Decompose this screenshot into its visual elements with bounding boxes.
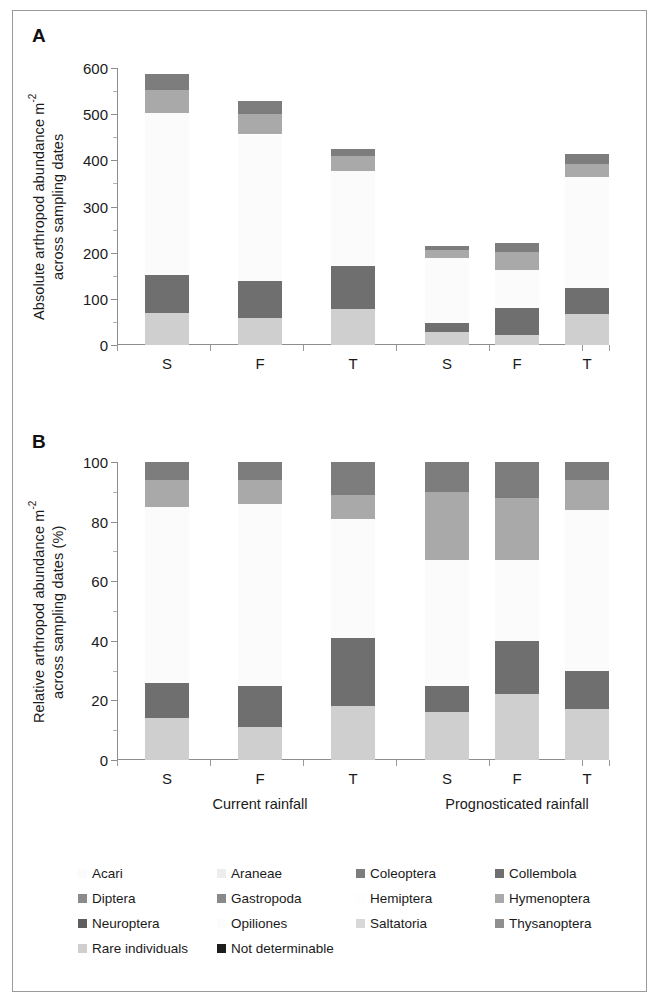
- legend-item-rare-individuals[interactable]: Rare individuals: [78, 941, 217, 956]
- legend-swatch-icon: [217, 869, 226, 878]
- bar-segment-hymenoptera: [495, 498, 539, 561]
- bar-segment-hymenoptera: [238, 480, 282, 504]
- bar-segment-rare-individuals: [495, 694, 539, 760]
- y-axis-line-a: [117, 68, 118, 345]
- legend-label: Gastropoda: [231, 891, 302, 906]
- x-tick-a-5: [582, 345, 583, 351]
- bar-segment-collembola: [145, 275, 189, 313]
- x-category-label-a-2: F: [230, 355, 290, 372]
- legend-item-neuroptera[interactable]: Neuroptera: [78, 916, 217, 931]
- y-tick-a-400: [111, 160, 117, 161]
- panel-label-b: B: [32, 431, 46, 453]
- legend-item-acari[interactable]: Acari: [78, 866, 217, 881]
- x-tick-a-6: [609, 345, 610, 351]
- bar-segment-acari: [425, 258, 469, 323]
- bar-segment-rare-individuals: [331, 309, 375, 345]
- bar-segment-acari: [238, 135, 282, 281]
- y-minor-tick-a: [113, 137, 117, 138]
- bar-segment-hymenoptera: [238, 114, 282, 135]
- legend-label: Acari: [92, 866, 123, 881]
- bar-segment-hymenoptera: [145, 90, 189, 113]
- bar-segment-coleoptera: [331, 462, 375, 495]
- x-category-label-b-2: F: [230, 770, 290, 787]
- legend-item-collembola[interactable]: Collembola: [495, 866, 634, 881]
- legend-label: Hymenoptera: [509, 891, 590, 906]
- bar-segment-coleoptera: [425, 462, 469, 492]
- bar-segment-rare-individuals: [565, 314, 609, 345]
- y-axis-label-a-text: Absolute arthropod abundance m: [31, 103, 47, 320]
- legend-item-thysanoptera[interactable]: Thysanoptera: [495, 916, 634, 931]
- legend-item-gastropoda[interactable]: Gastropoda: [217, 891, 356, 906]
- legend-item-hemiptera[interactable]: Hemiptera: [356, 891, 495, 906]
- plot-area-panel-b: 020406080100: [117, 462, 609, 760]
- group-label-prognosticated-rainfall: Prognosticated rainfall: [397, 796, 637, 812]
- bar-segment-collembola: [565, 671, 609, 710]
- x-tick-b-6: [609, 760, 610, 766]
- bar-segment-rare-individuals: [425, 332, 469, 345]
- y-tick-b-100: [111, 462, 117, 463]
- y-minor-tick-b: [113, 671, 117, 672]
- bar-segment-acari: [425, 560, 469, 685]
- x-category-label-b-4: S: [417, 770, 477, 787]
- y-tick-label-b-0: 0: [100, 752, 108, 769]
- bar-segment-coleoptera: [565, 462, 609, 480]
- y-tick-label-a-300: 300: [83, 198, 108, 215]
- bar-segment-coleoptera: [495, 462, 539, 498]
- legend-label: Opiliones: [231, 916, 287, 931]
- bar-segment-collembola: [495, 641, 539, 695]
- y-axis-label-b-superscript: -2: [27, 501, 38, 510]
- y-tick-label-b-40: 40: [91, 632, 108, 649]
- bar-b-5-F: [495, 462, 539, 760]
- x-tick-a-0: [117, 345, 118, 351]
- x-tick-b-0: [117, 760, 118, 766]
- legend-swatch-icon: [217, 919, 226, 928]
- bar-segment-rare-individuals: [145, 313, 189, 345]
- bar-segment-coleoptera: [145, 462, 189, 480]
- y-tick-a-500: [111, 114, 117, 115]
- x-category-label-a-5: F: [487, 355, 547, 372]
- bar-segment-acari: [331, 519, 375, 638]
- y-tick-a-100: [111, 299, 117, 300]
- legend-label: Not determinable: [231, 941, 334, 956]
- bar-segment-acari: [145, 507, 189, 683]
- legend-item-araneae[interactable]: Araneae: [217, 866, 356, 881]
- bar-segment-rare-individuals: [425, 712, 469, 760]
- bar-segment-hymenoptera: [565, 164, 609, 178]
- y-minor-tick-a: [113, 91, 117, 92]
- legend-label: Rare individuals: [92, 941, 188, 956]
- bar-segment-coleoptera: [425, 246, 469, 250]
- bar-segment-acari: [565, 177, 609, 288]
- y-tick-label-a-200: 200: [83, 244, 108, 261]
- plot-area-panel-a: 0100200300400500600: [117, 68, 609, 345]
- y-axis-label-panel-a: Absolute arthropod abundance m-2 across …: [26, 62, 66, 352]
- bar-segment-collembola: [331, 266, 375, 309]
- bar-segment-hymenoptera: [565, 480, 609, 510]
- y-axis-label-panel-b: Relative arthropod abundance m-2 across …: [26, 452, 66, 772]
- bar-segment-collembola: [425, 686, 469, 713]
- y-tick-b-40: [111, 641, 117, 642]
- bar-segment-collembola: [238, 686, 282, 728]
- legend-label: Thysanoptera: [509, 916, 592, 931]
- y-tick-label-b-60: 60: [91, 573, 108, 590]
- legend-item-opiliones[interactable]: Opiliones: [217, 916, 356, 931]
- legend-swatch-icon: [78, 869, 87, 878]
- x-tick-b-1: [210, 760, 211, 766]
- legend-swatch-icon: [356, 869, 365, 878]
- legend-item-coleoptera[interactable]: Coleoptera: [356, 866, 495, 881]
- legend-item-saltatoria[interactable]: Saltatoria: [356, 916, 495, 931]
- x-category-label-a-1: S: [137, 355, 197, 372]
- y-tick-label-b-20: 20: [91, 692, 108, 709]
- y-axis-label-a-superscript: -2: [27, 94, 38, 103]
- y-minor-tick-b: [113, 551, 117, 552]
- y-tick-a-300: [111, 207, 117, 208]
- y-tick-label-a-0: 0: [100, 337, 108, 354]
- y-minor-tick-a: [113, 322, 117, 323]
- bar-segment-collembola: [238, 281, 282, 318]
- bar-segment-coleoptera: [145, 74, 189, 90]
- legend-item-hymenoptera[interactable]: Hymenoptera: [495, 891, 634, 906]
- legend-item-diptera[interactable]: Diptera: [78, 891, 217, 906]
- bar-segment-acari: [238, 504, 282, 686]
- x-tick-a-1: [210, 345, 211, 351]
- bar-segment-acari: [145, 113, 189, 275]
- legend-item-not-determinable[interactable]: Not determinable: [217, 941, 356, 956]
